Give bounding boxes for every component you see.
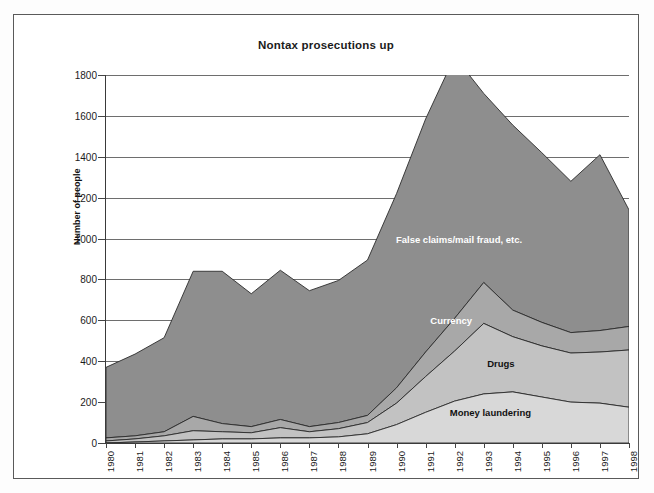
x-tick-label: 1981 [134, 451, 145, 472]
x-tick-mark [542, 443, 543, 448]
x-tick-mark [513, 443, 514, 448]
x-tick-mark [397, 443, 398, 448]
y-tick-label: 800 [80, 274, 97, 285]
y-tick-mark [98, 157, 105, 158]
x-tick-label: 1995 [540, 451, 551, 472]
y-tick-mark [98, 239, 105, 240]
y-tick-mark [98, 443, 105, 444]
x-tick-label: 1983 [192, 451, 203, 472]
x-tick-mark [309, 443, 310, 448]
y-tick-mark [98, 320, 105, 321]
x-tick-mark [135, 443, 136, 448]
y-tick-label: 200 [80, 397, 97, 408]
x-tick-mark [280, 443, 281, 448]
x-tick-mark [426, 443, 427, 448]
chart-title: Nontax prosecutions up [14, 39, 638, 51]
y-tick-label: 1000 [75, 233, 97, 244]
y-tick-label: 1800 [75, 70, 97, 81]
series-label: Drugs [487, 358, 514, 369]
series-label: Money laundering [450, 407, 531, 418]
x-tick-mark [600, 443, 601, 448]
x-tick-mark [484, 443, 485, 448]
x-tick-label: 1988 [337, 451, 348, 472]
y-tick-label: 600 [80, 315, 97, 326]
x-tick-mark [222, 443, 223, 448]
x-tick-mark [106, 443, 107, 448]
x-tick-label: 1989 [366, 451, 377, 472]
x-tick-label: 1996 [569, 451, 580, 472]
y-tick-mark [98, 75, 105, 76]
x-tick-mark [455, 443, 456, 448]
y-tick-mark [98, 402, 105, 403]
plot-area: Number of people 02004006008001000120014… [106, 75, 629, 443]
x-tick-label: 1994 [511, 451, 522, 472]
x-tick-label: 1993 [482, 451, 493, 472]
series-label: Currency [430, 315, 472, 326]
x-tick-mark [368, 443, 369, 448]
x-tick-mark [571, 443, 572, 448]
y-tick-mark [98, 279, 105, 280]
y-tick-label: 0 [91, 438, 97, 449]
x-tick-mark [629, 443, 630, 448]
y-tick-label: 1400 [75, 151, 97, 162]
y-tick-mark [98, 361, 105, 362]
x-tick-label: 1982 [163, 451, 174, 472]
series-label: False claims/mail fraud, etc. [396, 233, 522, 244]
x-tick-label: 1987 [308, 451, 319, 472]
x-tick-label: 1980 [105, 451, 116, 472]
stacked-area-series [106, 75, 629, 443]
x-tick-label: 1992 [453, 451, 464, 472]
x-tick-mark [193, 443, 194, 448]
x-tick-label: 1986 [279, 451, 290, 472]
x-tick-label: 1985 [250, 451, 261, 472]
y-tick-mark [98, 116, 105, 117]
chart-frame: Nontax prosecutions up Number of people … [13, 14, 639, 479]
x-tick-label: 1984 [221, 451, 232, 472]
x-tick-label: 1991 [424, 451, 435, 472]
x-tick-label: 1997 [598, 451, 609, 472]
x-tick-mark [338, 443, 339, 448]
y-tick-label: 1600 [75, 110, 97, 121]
y-tick-label: 400 [80, 356, 97, 367]
y-tick-mark [98, 198, 105, 199]
y-tick-label: 1200 [75, 192, 97, 203]
x-tick-mark [164, 443, 165, 448]
x-tick-label: 1990 [395, 451, 406, 472]
x-tick-label: 1998 [628, 451, 639, 472]
x-tick-mark [251, 443, 252, 448]
